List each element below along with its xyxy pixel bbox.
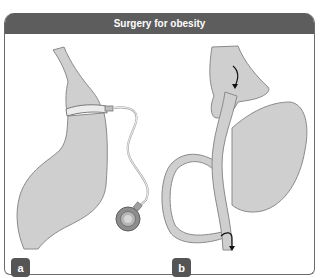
band-tubing <box>113 107 148 207</box>
band-connector <box>105 106 113 111</box>
remnant-stomach <box>232 102 307 212</box>
panel-a-illustration <box>17 47 148 249</box>
esophagus-shape <box>53 47 101 112</box>
panel-label-a: a <box>11 258 30 277</box>
panel-b-illustration <box>162 46 307 251</box>
gastric-pouch <box>210 46 269 118</box>
stomach-shape <box>17 113 107 249</box>
panel-label-b: b <box>172 258 191 277</box>
access-port <box>116 202 142 231</box>
surgery-illustration <box>0 0 322 278</box>
